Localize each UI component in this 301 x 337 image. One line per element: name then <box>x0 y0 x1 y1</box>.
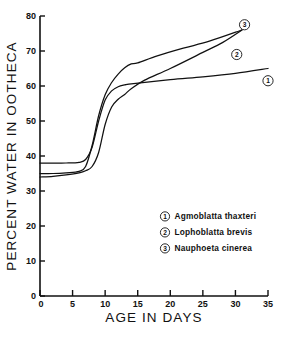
x-tick-label: 25 <box>198 299 208 309</box>
marker-number: 2 <box>235 51 239 58</box>
legend-label: Agmoblatta thaxteri <box>175 211 257 221</box>
y-tick-label: 0 <box>31 291 36 301</box>
legend-marker-number: 3 <box>163 245 167 252</box>
legend-item-3: 3Nauphoeta cinerea <box>160 243 252 253</box>
y-tick-label: 10 <box>26 256 36 266</box>
chart-figure: 01020304050607080 51015202530350 123 AGE… <box>0 0 301 337</box>
y-tick-label: 70 <box>26 46 36 56</box>
x-tick-label: 20 <box>165 299 175 309</box>
curve-end-marker-3: 3 <box>239 20 249 30</box>
x-axis-title: AGE IN DAYS <box>105 310 202 325</box>
x-tick-label-origin: 0 <box>38 299 43 309</box>
x-tick-label: 10 <box>100 299 110 309</box>
legend-item-1: 1Agmoblatta thaxteri <box>160 211 256 221</box>
water-content-line-chart: 01020304050607080 51015202530350 123 AGE… <box>0 0 301 337</box>
y-tick-label: 20 <box>26 221 36 231</box>
legend-marker-number: 1 <box>163 213 167 220</box>
curve-end-marker-2: 2 <box>232 49 242 59</box>
y-tick-label: 50 <box>26 116 36 126</box>
x-tick-label: 30 <box>230 299 240 309</box>
y-tick-label: 40 <box>26 151 36 161</box>
marker-number: 3 <box>243 21 247 28</box>
x-tick-label: 35 <box>263 299 273 309</box>
legend-item-2: 2Lophoblatta brevis <box>160 227 252 237</box>
legend-label: Lophoblatta brevis <box>175 227 253 237</box>
y-tick-label: 80 <box>26 11 36 21</box>
y-axis-title: PERCENT WATER IN OOTHECA <box>4 41 19 270</box>
y-tick-label: 60 <box>26 81 36 91</box>
chart-background <box>0 0 301 337</box>
x-tick-label: 15 <box>133 299 143 309</box>
curve-end-marker-1: 1 <box>263 76 273 86</box>
chart-legend: 1Agmoblatta thaxteri2Lophoblatta brevis3… <box>160 211 256 253</box>
marker-number: 1 <box>266 77 270 84</box>
legend-marker-number: 2 <box>163 229 167 236</box>
legend-label: Nauphoeta cinerea <box>175 243 253 253</box>
x-tick-label: 5 <box>70 299 75 309</box>
y-tick-label: 30 <box>26 186 36 196</box>
